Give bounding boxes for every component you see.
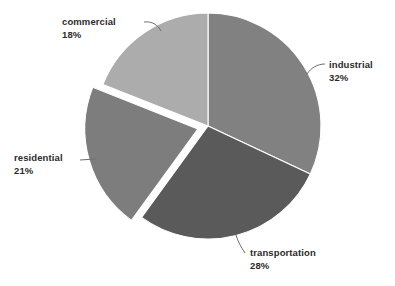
pie-label-industrial: industrial 32%: [329, 59, 373, 84]
pie-chart: commercial 18% industrial 32% residentia…: [0, 0, 395, 286]
pie-label-commercial: commercial 18%: [62, 16, 116, 41]
pie-label-transportation: transportation 28%: [250, 247, 316, 272]
pie-label-industrial-name: industrial: [329, 59, 373, 70]
pie-label-transportation-name: transportation: [250, 247, 316, 258]
pie-label-residential-name: residential: [14, 152, 63, 163]
leader-line-industrial: [307, 64, 325, 74]
pie-label-residential-percent: 21%: [14, 165, 63, 178]
pie-label-transportation-percent: 28%: [250, 260, 316, 273]
pie-chart-canvas: [0, 0, 395, 286]
pie-label-commercial-percent: 18%: [62, 29, 116, 42]
pie-label-residential: residential 21%: [14, 152, 63, 177]
pie-label-industrial-percent: 32%: [329, 72, 373, 85]
leader-line-transportation: [236, 235, 245, 253]
pie-label-commercial-name: commercial: [62, 16, 116, 27]
